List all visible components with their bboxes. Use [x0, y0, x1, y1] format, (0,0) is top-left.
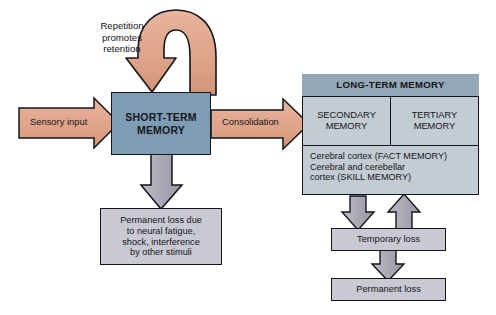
- temporary-loss-to-ltm-arrow: [388, 194, 420, 229]
- tertiary-memory-cell: TERTIARY MEMORY: [391, 97, 478, 146]
- short-term-memory-line1: SHORT-TERM: [125, 111, 196, 123]
- short-term-memory-line2: MEMORY: [125, 124, 196, 136]
- temporary-to-permanent-loss-arrow: [372, 250, 404, 281]
- repetition-promotes-retention-label: Repetition promotes retention: [76, 20, 168, 55]
- memory-diagram-canvas: SHORT-TERM MEMORY LONG-TERM MEMORY SECON…: [0, 0, 496, 315]
- repetition-line1: Repetition: [76, 20, 168, 32]
- substrate-line3: cortex (SKILL MEMORY): [310, 172, 447, 183]
- tertiary-memory-line2: MEMORY: [412, 121, 458, 132]
- secondary-memory-line1: SECONDARY: [317, 110, 376, 121]
- sensory-input-label: Sensory input: [30, 116, 87, 127]
- ltm-to-temporary-loss-arrow: [342, 196, 374, 230]
- repetition-line2: promotes: [76, 32, 168, 44]
- secondary-memory-line2: MEMORY: [317, 121, 376, 132]
- stm-to-permanent-loss-arrow: [141, 152, 182, 209]
- memory-substrate-cell: Cerebral cortex (FACT MEMORY) Cerebral a…: [303, 146, 478, 194]
- temporary-loss-box: Temporary loss: [331, 228, 446, 251]
- long-term-memory-header: LONG-TERM MEMORY: [302, 74, 479, 97]
- permanent-loss-stm-line1: Permanent loss due: [120, 215, 202, 226]
- permanent-loss-short-term-box: Permanent loss due to neural fatigue, sh…: [100, 208, 222, 265]
- tertiary-memory-line1: TERTIARY: [412, 110, 458, 121]
- permanent-loss-long-term-box: Permanent loss: [331, 278, 446, 301]
- substrate-line1: Cerebral cortex (FACT MEMORY): [310, 151, 447, 162]
- permanent-loss-stm-line4: by other stimuli: [120, 247, 202, 258]
- secondary-memory-cell: SECONDARY MEMORY: [303, 97, 391, 146]
- short-term-memory-box: SHORT-TERM MEMORY: [111, 92, 211, 155]
- substrate-line2: Cerebral and cerebellar: [310, 162, 447, 173]
- repetition-line3: retention: [76, 43, 168, 55]
- permanent-loss-stm-line2: to neural fatigue,: [120, 226, 202, 237]
- permanent-loss-stm-line3: shock, interference: [120, 237, 202, 248]
- consolidation-label: Consolidation: [222, 116, 279, 127]
